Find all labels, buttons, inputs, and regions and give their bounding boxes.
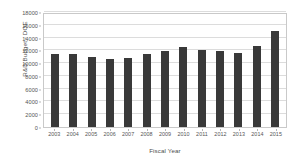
x-axis-tick-mark bbox=[202, 129, 203, 131]
x-axis-tick-label: 2009 bbox=[156, 129, 174, 143]
bar-slot bbox=[101, 14, 119, 127]
bar-slot bbox=[83, 14, 101, 127]
y-axis-tick-label: 2000 bbox=[25, 112, 38, 118]
bar[interactable] bbox=[124, 58, 132, 127]
bar[interactable] bbox=[198, 50, 206, 127]
bar[interactable] bbox=[161, 51, 169, 127]
y-axis-tick-label: 4000 bbox=[25, 99, 38, 105]
x-axis-tick-mark bbox=[165, 129, 166, 131]
y-axis-tick-labels: 0200040006000800010000120001400016000180… bbox=[0, 13, 41, 128]
bar[interactable] bbox=[106, 59, 114, 127]
x-axis-tick-label: 2015 bbox=[267, 129, 285, 143]
bar-slot bbox=[46, 14, 64, 127]
bar-slot bbox=[266, 14, 284, 127]
y-axis-tick-label: 18000 bbox=[22, 10, 38, 16]
x-axis-tick-label: 2004 bbox=[63, 129, 81, 143]
bar-slot bbox=[119, 14, 137, 127]
x-axis-tick-mark bbox=[184, 129, 185, 131]
bar[interactable] bbox=[88, 57, 96, 127]
bar-series bbox=[44, 14, 286, 127]
x-axis-title: Fiscal Year bbox=[43, 147, 287, 154]
y-axis-tick-mark bbox=[39, 64, 41, 65]
x-axis-tick-mark bbox=[73, 129, 74, 131]
bar[interactable] bbox=[143, 54, 151, 127]
bar-slot bbox=[64, 14, 82, 127]
x-axis-tick-label: 2007 bbox=[119, 129, 137, 143]
x-axis-tick-mark bbox=[110, 129, 111, 131]
x-axis-tick-labels: 2003200420052006200720082009201020112012… bbox=[43, 129, 287, 143]
x-axis-tick-label: 2014 bbox=[248, 129, 266, 143]
x-axis-tick-label: 2013 bbox=[230, 129, 248, 143]
y-axis-tick-mark bbox=[39, 25, 41, 26]
y-axis-tick-mark bbox=[39, 115, 41, 116]
x-axis-tick-mark bbox=[239, 129, 240, 131]
x-axis-tick-label: 2006 bbox=[100, 129, 118, 143]
y-axis-tick-mark bbox=[39, 76, 41, 77]
y-axis-tick-mark bbox=[39, 38, 41, 39]
bar-slot bbox=[156, 14, 174, 127]
bar[interactable] bbox=[234, 53, 242, 127]
x-axis-tick-label: 2010 bbox=[174, 129, 192, 143]
bar-slot bbox=[229, 14, 247, 127]
y-axis-tick-label: 8000 bbox=[25, 74, 38, 80]
bar-slot bbox=[211, 14, 229, 127]
y-axis-tick-mark bbox=[39, 89, 41, 90]
bar[interactable] bbox=[253, 46, 261, 127]
x-axis-tick-mark bbox=[147, 129, 148, 131]
bar[interactable] bbox=[179, 47, 187, 127]
x-axis-tick-mark bbox=[276, 129, 277, 131]
bar-slot bbox=[138, 14, 156, 127]
y-axis-tick-label: 10000 bbox=[22, 61, 38, 67]
gridline bbox=[44, 11, 286, 12]
x-axis-tick-mark bbox=[128, 129, 129, 131]
x-axis-tick-label: 2008 bbox=[137, 129, 155, 143]
y-axis-tick-label: 14000 bbox=[22, 36, 38, 42]
bar-slot bbox=[193, 14, 211, 127]
x-axis-tick-mark bbox=[257, 129, 258, 131]
y-axis-tick-label: 6000 bbox=[25, 87, 38, 93]
bar[interactable] bbox=[69, 54, 77, 127]
x-axis-tick-label: 2003 bbox=[45, 129, 63, 143]
x-axis-tick-mark bbox=[91, 129, 92, 131]
bar[interactable] bbox=[51, 54, 59, 127]
y-axis-tick-mark bbox=[39, 128, 41, 129]
x-axis-tick-mark bbox=[54, 129, 55, 131]
y-axis-tick-mark bbox=[39, 51, 41, 52]
x-axis-tick-label: 2011 bbox=[193, 129, 211, 143]
bar[interactable] bbox=[216, 51, 224, 127]
x-axis-tick-label: 2012 bbox=[211, 129, 229, 143]
bar-slot bbox=[174, 14, 192, 127]
plot-area bbox=[43, 13, 287, 128]
x-axis-tick-mark bbox=[220, 129, 221, 131]
bar-chart: R&D Budget - DOE 02000400060008000100001… bbox=[0, 0, 295, 163]
y-axis-tick-label: 0 bbox=[35, 125, 38, 131]
y-axis-tick-label: 16000 bbox=[22, 23, 38, 29]
x-axis-tick-label: 2005 bbox=[82, 129, 100, 143]
bar-slot bbox=[247, 14, 265, 127]
bar[interactable] bbox=[271, 31, 279, 127]
y-axis-tick-mark bbox=[39, 102, 41, 103]
y-axis-tick-mark bbox=[39, 13, 41, 14]
y-axis-tick-label: 12000 bbox=[22, 48, 38, 54]
